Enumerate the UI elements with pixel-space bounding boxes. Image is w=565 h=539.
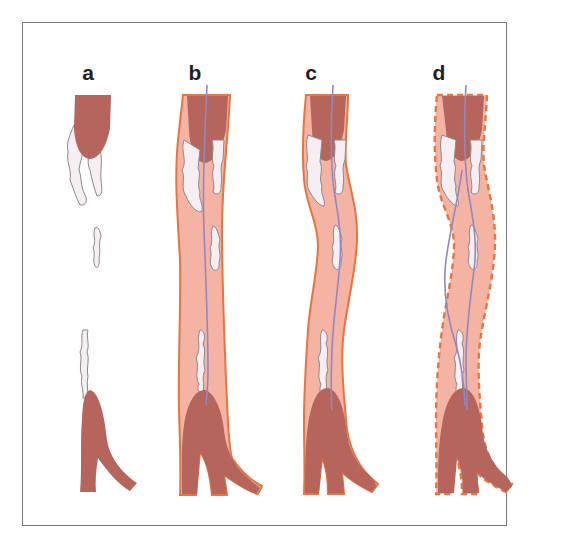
plaque-a3	[80, 330, 88, 398]
thrombus-distal-d	[438, 388, 512, 493]
plaque-a2	[93, 227, 101, 267]
panel-a	[67, 95, 137, 492]
thrombus-distal-a	[80, 390, 137, 492]
thrombus-distal-c	[305, 388, 376, 493]
panel-b	[176, 85, 262, 495]
thrombus-proximal-a	[74, 95, 111, 159]
vessel-illustration	[0, 0, 565, 539]
panel-c	[303, 85, 378, 494]
panel-d	[435, 85, 512, 494]
